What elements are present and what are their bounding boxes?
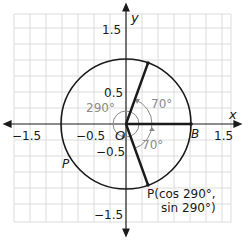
angle-lower-70-label: 70°: [142, 138, 163, 152]
x-axis-label: x: [228, 107, 237, 122]
point-b-label: B: [191, 127, 199, 141]
x-axis: [4, 121, 241, 127]
arc-upper-70: [135, 100, 152, 124]
radius-op: [126, 124, 148, 185]
point-p-coord-line2: sin 290°): [161, 201, 216, 215]
x-tick-1-5: 1.5: [214, 129, 233, 143]
y-tick-neg0-5: −0.5: [96, 145, 125, 159]
y-tick-1-5: 1.5: [102, 23, 121, 37]
x-tick-neg1-5: −1.5: [12, 129, 41, 143]
point-p-left-label: P: [62, 157, 70, 171]
unit-circle-diagram: y x −1.5 −0.5 1.5 1.5 0.5 −0.5 −1.5 O B …: [0, 0, 249, 240]
point-p-coord-line1: P(cos 290°,: [147, 187, 216, 201]
radius-upper: [126, 63, 148, 124]
y-tick-0-5: 0.5: [104, 86, 123, 100]
point-b: [189, 122, 193, 126]
x-tick-neg0-5: −0.5: [76, 129, 105, 143]
angle-upper-70-label: 70°: [151, 97, 172, 111]
point-upper: [146, 61, 150, 65]
y-axis-label: y: [130, 10, 139, 25]
origin-label: O: [115, 128, 125, 143]
angle-290-label: 290°: [86, 101, 115, 115]
y-tick-neg1-5: −1.5: [94, 208, 123, 222]
